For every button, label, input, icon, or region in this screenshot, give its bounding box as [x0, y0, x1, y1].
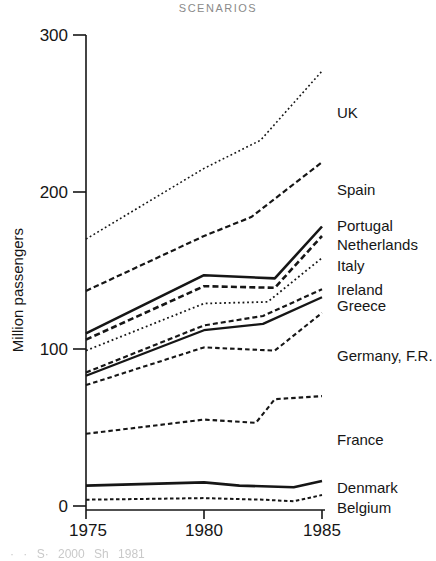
- series-label-greece: Greece: [337, 297, 386, 314]
- series-label-germany-f-r: Germany, F.R.: [337, 347, 433, 364]
- series-label-ireland: Ireland: [337, 281, 383, 298]
- series-line-netherlands: [86, 236, 322, 340]
- series-line-france: [86, 396, 322, 434]
- series-line-portugal: [86, 227, 322, 334]
- series-lines: [86, 71, 322, 501]
- series-label-belgium: Belgium: [337, 499, 391, 516]
- series-label-italy: Italy: [337, 257, 365, 274]
- series-label-portugal: Portugal: [337, 217, 393, 234]
- series-label-denmark: Denmark: [337, 479, 398, 496]
- footnote-fragment: · · S· 2000 Sh 1981: [10, 547, 250, 561]
- series-label-france: France: [337, 431, 384, 448]
- series-label-spain: Spain: [337, 181, 375, 198]
- series-label-netherlands: Netherlands: [337, 236, 418, 253]
- series-line-spain: [86, 162, 322, 291]
- series-line-uk: [86, 71, 322, 239]
- series-line-denmark: [86, 481, 322, 487]
- series-label-uk: UK: [337, 104, 358, 121]
- series-line-belgium: [86, 495, 322, 501]
- series-line-italy: [86, 258, 322, 351]
